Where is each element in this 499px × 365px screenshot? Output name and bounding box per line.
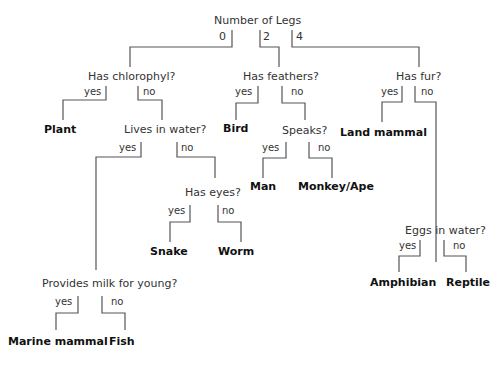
decision-tree-diagram: Number of Legs 0 2 4 Has chlorophyl? yes… [0,0,499,365]
leaf-marine-mammal: Marine mammal [8,335,108,348]
leaf-plant: Plant [44,123,76,136]
question-provides-milk: Provides milk for young? [42,277,177,290]
branch-no: no [222,205,234,216]
leaf-fish: Fish [109,335,135,348]
branch-label-0: 0 [219,30,226,43]
branch-no: no [181,142,193,153]
question-has-eyes: Has eyes? [185,186,241,199]
branch-no: no [143,86,155,97]
leaf-man: Man [250,180,276,193]
leaf-land-mammal: Land mammal [340,126,427,139]
branch-yes: yes [55,296,72,307]
branch-yes: yes [381,86,398,97]
branch-label-4: 4 [296,30,303,43]
branch-no: no [318,142,330,153]
branch-yes: yes [168,205,185,216]
branch-label-2: 2 [263,30,270,43]
leaf-amphibian: Amphibian [370,276,436,289]
question-eggs-in-water: Eggs in water? [405,224,486,237]
question-has-fur: Has fur? [396,70,441,83]
leaf-worm: Worm [218,245,254,258]
branch-yes: yes [399,240,416,251]
question-speaks: Speaks? [282,124,327,137]
leaf-monkey-ape: Monkey/Ape [298,180,374,193]
leaf-bird: Bird [223,122,248,135]
leaf-reptile: Reptile [446,276,490,289]
branch-no: no [421,86,433,97]
root-question: Number of Legs [214,14,301,27]
question-has-feathers: Has feathers? [243,70,319,83]
branch-yes: yes [262,142,279,153]
branch-yes: yes [84,86,101,97]
question-has-chlorophyl: Has chlorophyl? [88,70,175,83]
branch-yes: yes [235,86,252,97]
branch-no: no [111,296,123,307]
branch-no: no [453,240,465,251]
branch-no: no [291,86,303,97]
leaf-snake: Snake [150,245,188,258]
question-lives-in-water: Lives in water? [124,123,206,136]
branch-yes: yes [119,142,136,153]
